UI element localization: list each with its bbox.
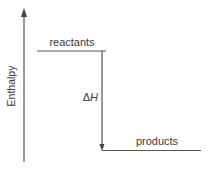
axis-label: Enthalpy xyxy=(5,65,17,107)
enthalpy-diagram: Enthalpy reactants ΔH products xyxy=(0,0,212,170)
axis-arrowhead-icon xyxy=(21,8,27,17)
delta-h-label: ΔH xyxy=(83,91,98,103)
reactants-label: reactants xyxy=(49,36,95,48)
products-label: products xyxy=(136,135,179,147)
